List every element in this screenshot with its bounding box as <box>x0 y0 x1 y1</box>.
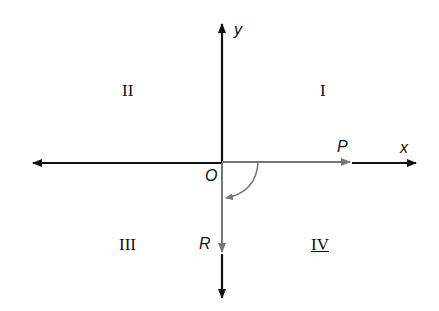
rotation-arc <box>226 163 258 198</box>
quadrant-3-label: III <box>119 236 136 253</box>
vector-r-label: R <box>199 236 211 252</box>
quadrant-1-label: I <box>320 82 326 99</box>
quadrant-2-label: II <box>122 82 133 99</box>
quadrant-4-label: IV <box>311 236 329 253</box>
x-axis-label: x <box>400 140 408 156</box>
y-axis-label: y <box>234 22 242 38</box>
origin-label: O <box>205 168 217 184</box>
coordinate-diagram <box>0 0 439 311</box>
vector-p-label: P <box>337 139 348 155</box>
